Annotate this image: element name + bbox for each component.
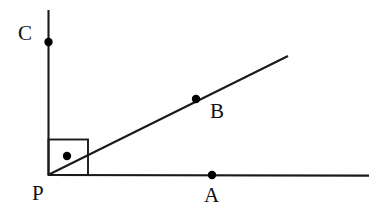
point-c-dot — [44, 38, 52, 46]
angle-interior-dot — [63, 152, 71, 160]
label-point-b: B — [210, 101, 224, 122]
point-a-dot — [208, 171, 216, 179]
label-point-p: P — [32, 183, 44, 204]
label-point-a: A — [204, 185, 219, 206]
label-point-c: C — [18, 23, 32, 44]
point-b-dot — [192, 95, 200, 103]
ray-pb-diagonal — [48, 56, 288, 175]
figure-canvas — [0, 0, 383, 217]
geometry-diagram: C B A P — [0, 0, 383, 217]
